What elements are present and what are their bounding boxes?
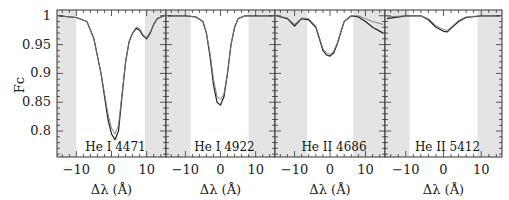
shaded-region [275, 10, 307, 157]
x-tick-label: 10 [473, 162, 490, 177]
x-tick-label: 0 [216, 162, 224, 177]
x-tick-label: −10 [172, 162, 199, 177]
panel-3: −10010Δλ (Å)He II 4686 [275, 10, 385, 197]
panel-4: −10010Δλ (Å)He II 5412 [385, 10, 502, 197]
y-axis: 10.950.90.850.8 [22, 8, 51, 138]
spectral-line-profiles-chart: −10010Δλ (Å)He I 4471−10010Δλ (Å)He I 49… [0, 0, 509, 200]
panels-group: −10010Δλ (Å)He I 4471−10010Δλ (Å)He I 49… [57, 10, 502, 197]
shaded-region [249, 10, 275, 157]
y-tick-label: 0.9 [30, 65, 51, 80]
panel-1: −10010Δλ (Å)He I 4471 [57, 10, 166, 197]
x-axis-title: Δλ (Å) [91, 182, 132, 197]
y-tick-label: 0.8 [30, 123, 51, 138]
x-tick-label: 0 [326, 162, 334, 177]
x-axis-title: Δλ (Å) [423, 182, 464, 197]
x-tick-label: 0 [107, 162, 115, 177]
shaded-region [477, 10, 502, 157]
x-tick-label: −10 [63, 162, 90, 177]
x-tick-label: 10 [138, 162, 155, 177]
line-label: He I 4471 [85, 140, 145, 154]
x-tick-label: 0 [439, 162, 447, 177]
line-label: He I 4922 [194, 140, 254, 154]
y-tick-label: 1 [43, 8, 51, 23]
x-tick-label: 10 [357, 162, 374, 177]
x-tick-label: 10 [247, 162, 264, 177]
shaded-region [166, 10, 191, 157]
x-axis-title: Δλ (Å) [309, 182, 350, 197]
x-tick-label: −10 [281, 162, 308, 177]
x-axis-title: Δλ (Å) [200, 182, 241, 197]
line-label: He II 5412 [415, 140, 480, 154]
shaded-region [145, 10, 166, 157]
y-axis-title: Fc [12, 77, 27, 93]
line-label: He II 4686 [301, 140, 366, 154]
x-tick-label: −10 [392, 162, 419, 177]
shaded-region [385, 10, 410, 157]
shaded-region [57, 10, 76, 157]
y-tick-label: 0.85 [22, 94, 51, 109]
panel-2: −10010Δλ (Å)He I 4922 [166, 10, 275, 197]
y-tick-label: 0.95 [22, 37, 51, 52]
